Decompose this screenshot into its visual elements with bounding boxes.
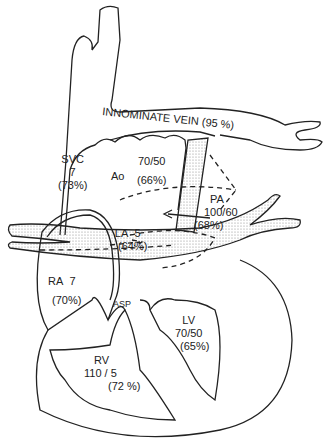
ra-sat: (70%) bbox=[48, 294, 81, 307]
la-label: LA 5 (64%) bbox=[108, 227, 147, 253]
pa-sat: (68%) bbox=[194, 219, 238, 232]
asp-label: ASP bbox=[113, 298, 131, 311]
ra-name: RA bbox=[48, 275, 63, 287]
lv-pressure: 70/50 bbox=[168, 327, 209, 340]
lv-label: LV 70/50 (65%) bbox=[168, 314, 209, 353]
ao-name: Ao bbox=[111, 170, 124, 183]
ra-pressure: 7 bbox=[69, 275, 75, 287]
ao-values: 70/50 (66%) bbox=[137, 155, 166, 187]
svc-label: SVC 7 (73%) bbox=[58, 153, 87, 192]
pa-pressure: 100/60 bbox=[194, 206, 238, 219]
rv-label: RV 110 / 5 (72 %) bbox=[84, 354, 140, 393]
ao-pressure: 70/50 bbox=[137, 155, 166, 168]
pa-label: PA 100/60 (68%) bbox=[194, 193, 238, 232]
pa-name: PA bbox=[194, 193, 238, 206]
heart-diagram bbox=[0, 0, 328, 443]
ra-label: RA 7 (70%) bbox=[48, 275, 81, 307]
la-pressure: 5 bbox=[134, 227, 140, 239]
ao-sat: (66%) bbox=[137, 174, 166, 187]
rv-sat: (72 %) bbox=[84, 380, 140, 393]
la-name: LA bbox=[115, 227, 128, 239]
rv-pressure: 110 / 5 bbox=[84, 367, 140, 380]
svc-name: SVC bbox=[58, 153, 87, 166]
lv-name: LV bbox=[168, 314, 209, 327]
rv-name: RV bbox=[84, 354, 140, 367]
innominate-sat: (95 %) bbox=[201, 116, 234, 131]
lv-sat: (65%) bbox=[168, 340, 209, 353]
svc-pressure: 7 bbox=[58, 166, 87, 179]
svc-sat: (73%) bbox=[58, 179, 87, 192]
la-sat: (64%) bbox=[108, 240, 147, 253]
